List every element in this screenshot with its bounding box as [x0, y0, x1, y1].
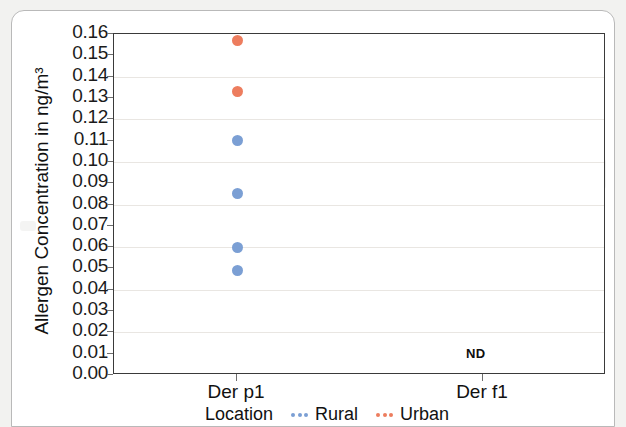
y-axis-tick-label: 0.13 — [48, 85, 108, 107]
legend-item-rural[interactable]: Rural — [291, 404, 358, 425]
y-axis-tick-mark — [107, 97, 113, 98]
y-axis-tick-mark — [107, 331, 113, 332]
scatter-chart: Allergen Concentration in ng/m³ 0.160.15… — [0, 0, 626, 427]
data-point[interactable] — [232, 135, 243, 146]
y-axis-tick-mark — [107, 118, 113, 119]
gridline — [114, 205, 604, 206]
y-axis-tick-label: 0.11 — [48, 128, 108, 150]
y-axis-tick-label: 0.07 — [48, 213, 108, 235]
y-axis-tick-mark — [107, 33, 113, 34]
y-axis-tick-label: 0.15 — [48, 42, 108, 64]
y-axis-tick-mark — [107, 204, 113, 205]
y-axis-tick-label: 0.03 — [48, 298, 108, 320]
data-point[interactable] — [232, 188, 243, 199]
y-axis-tick-mark — [107, 246, 113, 247]
x-axis-tick-mark — [482, 374, 483, 381]
data-point[interactable] — [232, 265, 243, 276]
y-axis-tick-label: 0.14 — [48, 64, 108, 86]
legend-item-label: Urban — [400, 404, 449, 425]
y-axis-tick-mark — [107, 161, 113, 162]
gridline — [114, 332, 604, 333]
y-axis-tick-mark — [107, 353, 113, 354]
y-axis-tick-label: 0.06 — [48, 234, 108, 256]
y-axis-tick-mark — [107, 289, 113, 290]
y-axis-tick-mark — [107, 76, 113, 77]
y-axis-tick-labels: 0.160.150.140.130.120.110.100.090.080.07… — [48, 0, 108, 427]
x-axis-tick-mark — [236, 374, 237, 381]
gridline — [114, 162, 604, 163]
legend-dots-icon — [376, 413, 393, 417]
legend-item-urban[interactable]: Urban — [376, 404, 449, 425]
plot-area — [113, 33, 605, 374]
y-axis-tick-mark — [107, 267, 113, 268]
y-axis-tick-label: 0.12 — [48, 106, 108, 128]
y-axis-tick-label: 0.00 — [48, 362, 108, 384]
data-point[interactable] — [232, 242, 243, 253]
y-axis-tick-label: 0.16 — [48, 21, 108, 43]
gridline — [114, 247, 604, 248]
y-axis-tick-label: 0.08 — [48, 192, 108, 214]
gridline — [114, 119, 604, 120]
gridline — [114, 290, 604, 291]
gridline — [114, 77, 604, 78]
y-axis-tick-label: 0.09 — [48, 170, 108, 192]
y-axis-tick-mark — [107, 182, 113, 183]
data-point[interactable] — [232, 35, 243, 46]
chart-legend: Location Rural Urban — [205, 404, 449, 425]
x-axis-tick-label: Der p1 — [156, 381, 316, 403]
y-axis-tick-mark — [107, 225, 113, 226]
y-axis-tick-label: 0.02 — [48, 319, 108, 341]
y-axis-tick-mark — [107, 374, 113, 375]
legend-dots-icon — [291, 413, 308, 417]
y-axis-tick-mark — [107, 310, 113, 311]
y-axis-tick-label: 0.01 — [48, 341, 108, 363]
y-axis-tick-label: 0.10 — [48, 149, 108, 171]
data-point[interactable] — [232, 86, 243, 97]
nd-annotation: ND — [466, 346, 485, 361]
y-axis-tick-label: 0.05 — [48, 255, 108, 277]
y-axis-tick-label: 0.04 — [48, 277, 108, 299]
y-axis-tick-mark — [107, 140, 113, 141]
x-axis-tick-label: Der f1 — [402, 381, 562, 403]
legend-item-label: Rural — [315, 404, 358, 425]
y-axis-tick-mark — [107, 54, 113, 55]
legend-title: Location — [205, 404, 273, 425]
